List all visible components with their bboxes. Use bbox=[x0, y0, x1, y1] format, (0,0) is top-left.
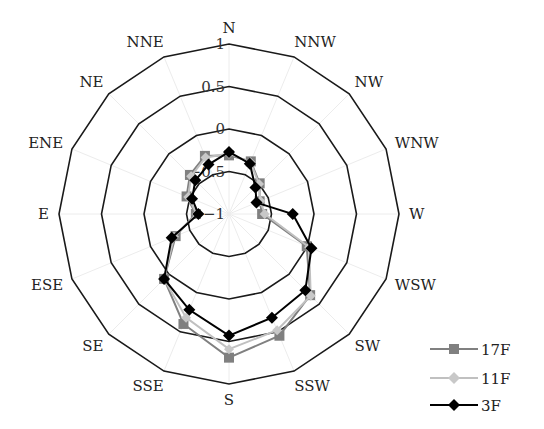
radar-chart: −1−0.500.51 NNNWNWWNWWWSWSWSSWSSSESEESEE… bbox=[0, 0, 544, 429]
series-17f bbox=[159, 150, 315, 362]
direction-label-w: W bbox=[409, 205, 425, 223]
ring-tick-label: 1 bbox=[215, 35, 225, 53]
legend-item-11f: 11F bbox=[430, 370, 511, 388]
direction-label-wsw: WSW bbox=[395, 276, 437, 294]
diamond-marker-icon bbox=[448, 372, 460, 384]
ring-tick-label: 0.5 bbox=[201, 78, 225, 96]
direction-label-ene: ENE bbox=[28, 134, 63, 152]
direction-label-n: N bbox=[222, 19, 235, 37]
ring-tick-label: 0 bbox=[215, 120, 225, 138]
square-marker-icon bbox=[449, 344, 459, 354]
diamond-marker-icon bbox=[448, 399, 460, 411]
legend: 17F 11F 3F bbox=[430, 341, 511, 415]
ring-tick-label: −1 bbox=[203, 205, 225, 223]
direction-label-nne: NNE bbox=[127, 33, 164, 51]
direction-label-nnw: NNW bbox=[294, 33, 336, 51]
legend-item-17f: 17F bbox=[430, 341, 511, 359]
direction-label-sse: SSE bbox=[133, 377, 164, 395]
legend-label-17f: 17F bbox=[481, 341, 511, 359]
direction-label-nw: NW bbox=[355, 73, 384, 91]
direction-label-ssw: SSW bbox=[294, 377, 330, 395]
legend-label-11f: 11F bbox=[481, 370, 511, 388]
legend-label-3f: 3F bbox=[481, 397, 501, 415]
direction-label-wnw: WNW bbox=[395, 134, 440, 152]
direction-label-ne: NE bbox=[79, 73, 103, 91]
direction-label-s: S bbox=[224, 391, 234, 409]
legend-item-3f: 3F bbox=[430, 397, 501, 415]
direction-label-sw: SW bbox=[355, 337, 381, 355]
direction-label-e: E bbox=[38, 205, 49, 223]
direction-label-se: SE bbox=[82, 337, 103, 355]
direction-label-ese: ESE bbox=[31, 276, 63, 294]
